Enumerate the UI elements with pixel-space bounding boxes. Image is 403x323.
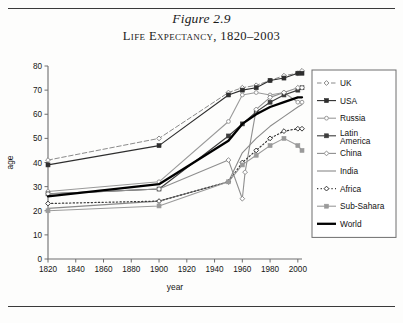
data-point [240,196,245,201]
data-point [268,100,272,104]
top-divider-rule [8,8,395,9]
y-tick-label: 10 [33,231,43,240]
x-tick-label: 1920 [178,265,197,274]
data-point [240,163,244,167]
x-tick-label: 1880 [122,265,141,274]
data-point [282,136,286,140]
legend-label: Sub-Sahara [340,201,385,211]
y-tick-label: 40 [33,159,43,168]
data-point [300,126,305,131]
figure-caption: Life Expectancy, 1820–2003 [0,28,403,44]
data-point [226,180,230,184]
y-tick-label: 60 [33,110,43,119]
x-tick-label: 2000 [289,265,308,274]
data-point [46,201,51,206]
x-tick-label: 1960 [233,265,252,274]
x-tick-label: 1940 [205,265,224,274]
y-tick-label: 30 [33,183,43,192]
x-tick-label: 1980 [261,265,280,274]
data-point [300,100,304,104]
x-tick-label: 1860 [94,265,113,274]
chart-legend: UKUSARussiaLatinAmericaChinaIndiaAfricaS… [312,70,396,237]
data-point [300,148,304,152]
legend-label: India [340,166,358,176]
figure-title-block: Figure 2.9 Life Expectancy, 1820–2003 [0,11,403,44]
data-point [296,71,300,75]
y-tick-label: 0 [37,255,42,264]
plot-series-layer [46,68,305,212]
life-expectancy-line-chart: 0102030405060708018201840186018801900192… [0,52,403,302]
figure-page: Figure 2.9 Life Expectancy, 1820–2003 01… [0,0,403,323]
legend-label: Africa [340,184,362,194]
data-point [226,93,230,97]
data-point [254,91,258,95]
legend-label: China [340,148,362,158]
y-axis-title: age [5,155,15,169]
data-point [282,129,287,134]
bottom-divider-rule [8,306,395,307]
data-point [300,71,304,75]
legend-label: Russia [340,113,366,123]
data-point [325,99,329,103]
data-point [268,144,272,148]
y-tick-label: 20 [33,207,43,216]
data-point [226,158,231,163]
y-tick-label: 80 [33,62,43,71]
data-point [157,204,161,208]
data-point [325,134,329,138]
data-point [325,204,329,208]
data-point [240,93,244,97]
x-tick-label: 1900 [150,265,169,274]
y-tick-label: 50 [33,134,43,143]
y-tick-label: 70 [33,86,43,95]
series-africa [46,126,305,206]
data-point [46,209,50,213]
data-point [243,170,248,175]
data-point [157,199,162,204]
series-world [48,97,302,196]
data-point [157,144,161,148]
legend-label: World [340,219,362,229]
legend-label: UK [340,78,352,88]
data-point [282,76,286,80]
data-point [227,120,231,124]
data-point [240,88,244,92]
data-point [254,153,258,157]
data-point [268,78,272,82]
data-point [254,86,258,90]
data-point [296,144,300,148]
x-tick-label: 1840 [67,265,86,274]
x-tick-label: 1820 [39,265,58,274]
data-point [46,163,50,167]
data-point [296,100,300,104]
figure-number: Figure 2.9 [0,11,403,27]
x-axis-title: year [167,282,184,292]
data-point [325,116,329,120]
legend-label-cont: America [340,136,371,146]
data-point [46,158,51,163]
series-china [46,85,305,201]
chart-container: 0102030405060708018201840186018801900192… [0,52,403,302]
legend-label: USA [340,96,358,106]
